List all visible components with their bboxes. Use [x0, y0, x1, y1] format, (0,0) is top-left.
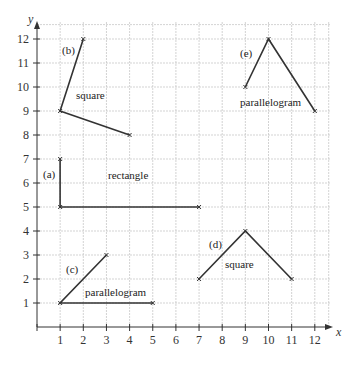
x-axis-label: x	[335, 325, 342, 339]
y-axis-arrow-icon	[34, 21, 40, 29]
x-tick-label: 6	[173, 333, 179, 347]
x-axis-arrow-icon	[325, 324, 333, 330]
y-tick-label: 11	[17, 56, 29, 70]
y-tick-label: 6	[23, 176, 29, 190]
x-tick-label: 1	[57, 333, 63, 347]
x-tick-label: 5	[150, 333, 156, 347]
x-tick-label: 9	[242, 333, 248, 347]
shape-e-tag: (e)	[240, 47, 253, 60]
y-tick-label: 8	[23, 128, 29, 142]
shape-c-name: parallelogram	[85, 286, 147, 298]
x-tick-label: 12	[309, 333, 321, 347]
shape-e-name: parallelogram	[240, 96, 302, 108]
y-tick-label: 7	[23, 152, 29, 166]
shape-a-name: rectangle	[108, 169, 148, 181]
x-tick-label: 7	[196, 333, 202, 347]
y-tick-label: 4	[23, 224, 29, 238]
coordinate-grid-diagram: x y 123456789101112123456789101112 (a) r…	[0, 0, 347, 366]
y-tick-label: 2	[23, 272, 29, 286]
shape-b-tag: (b)	[62, 44, 75, 57]
x-tick-label: 8	[219, 333, 225, 347]
y-tick-label: 10	[17, 80, 29, 94]
shape-a-tag: (a)	[43, 168, 56, 181]
x-tick-label: 10	[263, 333, 275, 347]
x-tick-label: 11	[286, 333, 298, 347]
x-tick-label: 3	[103, 333, 109, 347]
x-tick-label: 2	[80, 333, 86, 347]
y-tick-label: 5	[23, 200, 29, 214]
shape-c-tag: (c)	[66, 263, 79, 276]
shapes	[58, 37, 317, 305]
shape-d-tag: (d)	[209, 238, 222, 251]
y-tick-label: 3	[23, 248, 29, 262]
x-tick-label: 4	[127, 333, 133, 347]
y-tick-label: 1	[23, 296, 29, 310]
y-tick-label: 9	[23, 104, 29, 118]
shape-b-name: square	[76, 89, 105, 101]
y-tick-label: 12	[17, 32, 29, 46]
shape-d-name: square	[225, 258, 254, 270]
y-axis-label: y	[27, 12, 34, 26]
